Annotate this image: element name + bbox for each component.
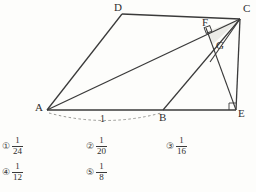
answer-choice-2[interactable]: ② 1 20 bbox=[86, 136, 107, 156]
choice-numerator-2: 1 bbox=[98, 136, 105, 146]
choice-denominator-3: 16 bbox=[176, 147, 187, 157]
answer-choice-5[interactable]: ⑤ 1 8 bbox=[86, 162, 107, 182]
segment-ad bbox=[47, 14, 122, 110]
answer-choice-4[interactable]: ④ 1 12 bbox=[2, 162, 23, 182]
question-page: D C F G A B E 1 ① 1 24 ② 1 20 ③ bbox=[0, 0, 256, 192]
choice-numerator-4: 1 bbox=[14, 162, 21, 172]
choice-numerator-1: 1 bbox=[14, 136, 21, 146]
segment-ce bbox=[236, 19, 240, 110]
answer-choice-1[interactable]: ① 1 24 bbox=[2, 136, 23, 156]
choice-marker-1: ① bbox=[2, 142, 10, 151]
geometry-figure: D C F G A B E 1 bbox=[0, 0, 256, 132]
choice-numerator-5: 1 bbox=[98, 162, 105, 172]
choice-fraction-3: 1 16 bbox=[176, 136, 187, 156]
choice-marker-4: ④ bbox=[2, 168, 10, 177]
choice-marker-2: ② bbox=[86, 142, 94, 151]
measure-arc-ab bbox=[49, 113, 161, 121]
vertex-label-g: G bbox=[216, 40, 224, 51]
segment-dc bbox=[122, 14, 240, 19]
vertex-label-f: F bbox=[202, 17, 208, 28]
segment-bc bbox=[163, 19, 240, 110]
vertex-label-a: A bbox=[35, 102, 43, 113]
choice-fraction-5: 1 8 bbox=[96, 162, 107, 182]
answer-choices: ① 1 24 ② 1 20 ③ 1 16 ④ bbox=[0, 132, 256, 192]
choice-fraction-2: 1 20 bbox=[96, 136, 107, 156]
vertex-label-e: E bbox=[238, 108, 245, 119]
choice-denominator-1: 24 bbox=[12, 147, 23, 157]
choice-denominator-4: 12 bbox=[12, 173, 23, 183]
choice-numerator-3: 1 bbox=[178, 136, 185, 146]
choice-denominator-5: 8 bbox=[98, 173, 105, 183]
choice-denominator-2: 20 bbox=[96, 147, 107, 157]
choice-marker-5: ⑤ bbox=[86, 168, 94, 177]
measure-label-ab: 1 bbox=[100, 114, 105, 124]
answer-choice-3[interactable]: ③ 1 16 bbox=[166, 136, 187, 156]
choice-marker-3: ③ bbox=[166, 142, 174, 151]
vertex-label-d: D bbox=[114, 2, 122, 13]
vertex-label-b: B bbox=[159, 112, 166, 123]
vertex-label-c: C bbox=[243, 3, 250, 14]
choice-fraction-4: 1 12 bbox=[12, 162, 23, 182]
segment-ac bbox=[47, 19, 240, 110]
choice-fraction-1: 1 24 bbox=[12, 136, 23, 156]
